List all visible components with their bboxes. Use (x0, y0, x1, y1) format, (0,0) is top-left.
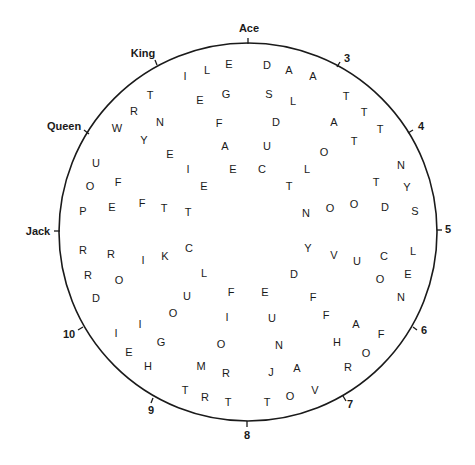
clock-label: 3 (344, 53, 350, 64)
puzzle-letter: D (290, 269, 298, 280)
clock-label: 6 (421, 325, 427, 336)
puzzle-letter: F (216, 118, 223, 129)
puzzle-letter: P (79, 206, 86, 217)
puzzle-letter: N (397, 160, 405, 171)
clock-label: Jack (26, 226, 50, 237)
puzzle-letter: R (222, 368, 230, 379)
puzzle-letter: I (183, 71, 186, 82)
puzzle-letter: O (169, 308, 178, 319)
puzzle-letter: G (222, 89, 231, 100)
puzzle-letter: Y (304, 243, 311, 254)
puzzle-letter: G (157, 337, 166, 348)
puzzle-letter: C (380, 251, 388, 262)
puzzle-letter: A (293, 363, 300, 374)
tick-mark (413, 327, 417, 330)
puzzle-letter: O (326, 203, 335, 214)
puzzle-letter: A (221, 141, 228, 152)
clock-label: Ace (239, 23, 259, 34)
puzzle-letter: K (161, 251, 168, 262)
puzzle-letter: I (186, 164, 189, 175)
puzzle-letter: V (311, 385, 318, 396)
puzzle-letter: F (323, 310, 330, 321)
clock-letter-puzzle: Ace345678910JackQueenKingILEDAATEGSLTRNF… (0, 0, 475, 465)
puzzle-letter: T (185, 207, 192, 218)
puzzle-letter: O (286, 391, 295, 402)
puzzle-letter: T (286, 181, 293, 192)
puzzle-letter: U (268, 313, 276, 324)
puzzle-letter: V (330, 250, 337, 261)
puzzle-letter: O (362, 348, 371, 359)
puzzle-letter: O (350, 199, 359, 210)
clock-circle (59, 43, 437, 421)
puzzle-letter: O (376, 274, 385, 285)
puzzle-letter: O (86, 181, 95, 192)
puzzle-letter: U (183, 291, 191, 302)
clock-label: 5 (445, 224, 451, 235)
puzzle-letter: I (114, 328, 117, 339)
puzzle-letter: N (302, 208, 310, 219)
puzzle-letter: I (141, 255, 144, 266)
puzzle-letter: T (147, 90, 154, 101)
clock-label: 7 (347, 399, 353, 410)
puzzle-letter: E (196, 95, 203, 106)
tick-mark (151, 398, 153, 403)
puzzle-letter: D (263, 60, 271, 71)
clock-label: 4 (418, 121, 424, 132)
puzzle-letter: U (263, 141, 271, 152)
puzzle-letter: L (201, 268, 207, 279)
puzzle-letter: C (258, 164, 266, 175)
clock-label: 8 (244, 430, 250, 441)
puzzle-letter: L (410, 246, 416, 257)
puzzle-letter: D (272, 117, 280, 128)
puzzle-letter: T (225, 397, 232, 408)
puzzle-letter: R (84, 270, 92, 281)
puzzle-letter: A (285, 65, 292, 76)
puzzle-letter: N (156, 117, 164, 128)
puzzle-letter: F (310, 292, 317, 303)
puzzle-letter: H (144, 361, 152, 372)
puzzle-letter: F (378, 329, 385, 340)
puzzle-letter: D (381, 202, 389, 213)
puzzle-letter: T (377, 124, 384, 135)
puzzle-letter: R (201, 392, 209, 403)
puzzle-letter: Y (140, 135, 147, 146)
puzzle-letter: S (265, 89, 272, 100)
tick-mark (78, 327, 83, 330)
puzzle-letter: L (304, 164, 310, 175)
puzzle-letter: R (79, 245, 87, 256)
puzzle-letter: H (333, 337, 341, 348)
puzzle-letter: T (264, 397, 271, 408)
puzzle-letter: E (108, 202, 115, 213)
puzzle-letter: A (352, 319, 359, 330)
puzzle-letter: R (344, 362, 352, 373)
puzzle-letter: T (351, 136, 358, 147)
puzzle-letter: W (112, 123, 122, 134)
puzzle-letter: T (373, 177, 380, 188)
tick-mark (343, 396, 346, 401)
puzzle-letter: T (161, 203, 168, 214)
puzzle-letter: S (411, 206, 418, 217)
puzzle-letter: E (261, 287, 268, 298)
puzzle-letter: E (125, 347, 132, 358)
puzzle-letter: A (330, 117, 337, 128)
puzzle-letter: E (229, 164, 236, 175)
puzzle-letter: O (217, 339, 226, 350)
puzzle-letter: E (225, 59, 232, 70)
puzzle-letter: E (404, 269, 411, 280)
clock-label: King (131, 48, 155, 59)
puzzle-letter: D (92, 293, 100, 304)
puzzle-letter: Y (403, 182, 410, 193)
clock-label: Queen (47, 121, 81, 132)
clock-face-circle (0, 0, 475, 465)
tick-mark (155, 60, 157, 65)
puzzle-letter: O (320, 147, 329, 158)
puzzle-letter: O (115, 275, 124, 286)
puzzle-letter: A (309, 71, 316, 82)
puzzle-letter: U (92, 158, 100, 169)
puzzle-letter: M (196, 361, 205, 372)
puzzle-letter: R (130, 106, 138, 117)
puzzle-letter: T (361, 107, 368, 118)
puzzle-letter: R (107, 249, 115, 260)
puzzle-letter: F (228, 287, 235, 298)
puzzle-letter: F (139, 198, 146, 209)
